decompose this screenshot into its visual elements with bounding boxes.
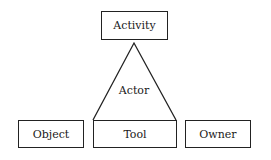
- tool-label: Tool: [123, 128, 146, 141]
- tool-box: Tool: [93, 120, 177, 148]
- owner-box: Owner: [185, 120, 251, 148]
- object-label: Object: [33, 128, 70, 141]
- actor-label: Actor: [119, 84, 149, 97]
- activity-label: Activity: [113, 19, 155, 32]
- object-box: Object: [18, 120, 84, 148]
- activity-box: Activity: [101, 11, 168, 40]
- owner-label: Owner: [199, 128, 236, 141]
